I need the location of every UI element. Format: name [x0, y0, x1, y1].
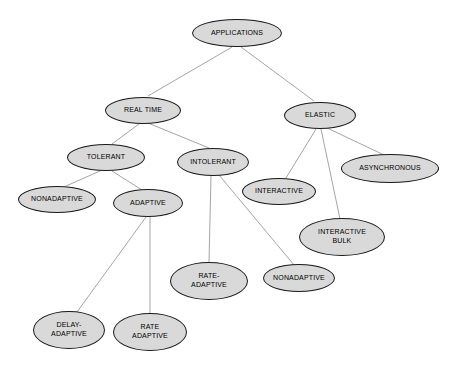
node-label-nonadaptive-tol: NONADAPTIVE — [31, 195, 83, 204]
node-intolerant[interactable]: INTOLERANT — [177, 148, 249, 176]
node-label-rate-adaptive-1: RATE- ADAPTIVE — [191, 272, 227, 289]
node-layer: APPLICATIONSREAL TIMEELASTICTOLERANTINTO… — [0, 0, 451, 368]
node-nonadaptive-int[interactable]: NONADAPTIVE — [263, 264, 335, 292]
node-elastic[interactable]: ELASTIC — [284, 102, 356, 129]
node-label-adaptive: ADAPTIVE — [130, 199, 166, 208]
node-label-elastic: ELASTIC — [305, 111, 335, 120]
node-label-applications: APPLICATIONS — [211, 29, 263, 38]
node-label-nonadaptive-int: NONADAPTIVE — [273, 274, 325, 283]
node-label-interactive: INTERACTIVE — [255, 187, 303, 196]
node-real-time[interactable]: REAL TIME — [105, 97, 181, 124]
node-nonadaptive-tol[interactable]: NONADAPTIVE — [18, 186, 96, 213]
node-adaptive[interactable]: ADAPTIVE — [113, 189, 183, 217]
node-label-delay-adaptive: DELAY- ADAPTIVE — [51, 321, 87, 338]
node-delay-adaptive[interactable]: DELAY- ADAPTIVE — [33, 311, 105, 349]
node-label-rate-adaptive-2: RATE ADAPTIVE — [132, 323, 168, 340]
applications-taxonomy-diagram: APPLICATIONSREAL TIMEELASTICTOLERANTINTO… — [0, 0, 451, 368]
node-label-intolerant: INTOLERANT — [190, 158, 236, 167]
node-interactive-bulk[interactable]: INTERACTIVE BULK — [299, 218, 385, 256]
node-label-interactive-bulk: INTERACTIVE BULK — [318, 228, 366, 245]
node-label-real-time: REAL TIME — [124, 106, 162, 115]
node-rate-adaptive-2[interactable]: RATE ADAPTIVE — [113, 313, 187, 351]
node-applications[interactable]: APPLICATIONS — [192, 19, 282, 47]
node-asynchronous[interactable]: ASYNCHRONOUS — [341, 154, 439, 183]
node-interactive[interactable]: INTERACTIVE — [242, 178, 316, 205]
node-tolerant[interactable]: TOLERANT — [67, 144, 145, 171]
node-label-asynchronous: ASYNCHRONOUS — [359, 164, 421, 173]
node-rate-adaptive-1[interactable]: RATE- ADAPTIVE — [170, 262, 248, 300]
node-label-tolerant: TOLERANT — [87, 153, 125, 162]
